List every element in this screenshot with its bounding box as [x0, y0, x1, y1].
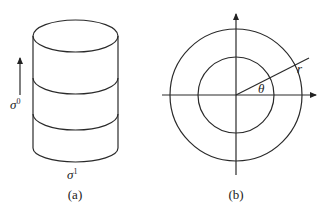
sigma1-label: σ1 [67, 167, 77, 182]
cylinder-bottom-arc [33, 148, 118, 162]
caption-b: (b) [228, 187, 243, 202]
panel-b-annulus [162, 14, 316, 175]
caption-a: (a) [68, 187, 82, 202]
theta-label: θ [258, 81, 265, 96]
slice-arc-2 [33, 114, 118, 130]
figure: σ0 σ1 (a) θ r (b) [0, 0, 325, 206]
slice-arc-1 [33, 78, 118, 94]
r-label: r [297, 61, 303, 76]
cylinder-top-ellipse [33, 20, 118, 52]
panel-a-cylinder [33, 20, 118, 162]
sigma0-label: σ0 [10, 97, 20, 112]
